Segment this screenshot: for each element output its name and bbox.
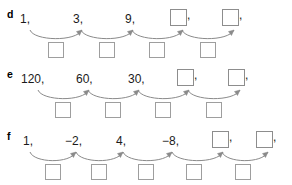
sequence-answer-box[interactable]: , — [256, 129, 276, 146]
rule-answer-box[interactable] — [105, 102, 121, 118]
arrow-head-icon — [118, 152, 124, 158]
arrow-head-icon — [229, 30, 235, 36]
arrow-head-icon — [263, 152, 269, 158]
empty-box-icon[interactable] — [170, 9, 187, 26]
empty-box-icon[interactable] — [228, 69, 245, 86]
sequence-row-e: e120,60,30,,, — [0, 60, 292, 122]
sequence-row-d: d1,3,9,,, — [0, 0, 292, 62]
rule-answer-box[interactable] — [55, 102, 71, 118]
rule-answer-box[interactable] — [155, 102, 171, 118]
sequence-term: 1, — [20, 12, 30, 26]
sequence-answer-box[interactable]: , — [212, 129, 232, 146]
rule-answer-box[interactable] — [45, 164, 61, 180]
sequence-term: −2, — [65, 134, 82, 148]
rule-answer-box[interactable] — [91, 164, 107, 180]
comma: , — [229, 130, 232, 144]
sequence-term: 4, — [116, 134, 126, 148]
empty-box-icon[interactable] — [256, 131, 273, 148]
sequence-row-f: f1,−2,4,−8,,, — [0, 122, 292, 185]
rule-answer-box[interactable] — [206, 102, 222, 118]
sequence-answer-box[interactable]: , — [170, 7, 190, 24]
arrow-head-icon — [77, 30, 83, 36]
comma: , — [245, 68, 248, 82]
rule-answer-box[interactable] — [99, 42, 115, 58]
rule-answer-box[interactable] — [200, 42, 216, 58]
sequence-answer-box[interactable]: , — [228, 67, 248, 84]
curved-arrow-icon — [138, 90, 189, 99]
rule-answer-box[interactable] — [186, 164, 202, 180]
row-label-e: e — [7, 68, 13, 80]
sequence-term: 30, — [128, 72, 145, 86]
curved-arrow-icon — [81, 30, 133, 39]
arrow-head-icon — [235, 90, 241, 96]
comma: , — [273, 130, 276, 144]
sequence-answer-box[interactable]: , — [177, 67, 197, 84]
curved-arrow-icon — [88, 90, 139, 99]
empty-box-icon[interactable] — [212, 131, 229, 148]
curved-arrow-icon — [182, 30, 234, 39]
empty-box-icon[interactable] — [177, 69, 194, 86]
sequence-term: 60, — [76, 72, 93, 86]
curved-arrow-icon — [123, 152, 172, 161]
sequence-term: 1, — [23, 134, 33, 148]
rule-answer-box[interactable] — [48, 42, 64, 58]
arrow-head-icon — [218, 152, 224, 158]
comma: , — [187, 8, 190, 22]
row-label-d: d — [7, 8, 13, 20]
empty-box-icon[interactable] — [222, 9, 239, 26]
rule-answer-box[interactable] — [235, 164, 251, 180]
curved-arrow-icon — [172, 152, 223, 161]
curved-arrow-icon — [30, 30, 82, 39]
rule-answer-box[interactable] — [149, 42, 165, 58]
comma: , — [239, 8, 242, 22]
sequence-term: 3, — [73, 12, 83, 26]
arrow-head-icon — [128, 30, 134, 36]
sequence-term: 120, — [21, 72, 44, 86]
arrow-head-icon — [71, 152, 77, 158]
sequence-answer-box[interactable]: , — [222, 7, 242, 24]
curved-arrow-icon — [38, 90, 89, 99]
arrow-head-icon — [167, 152, 173, 158]
arrow-head-icon — [178, 30, 184, 36]
comma: , — [194, 68, 197, 82]
curved-arrow-icon — [76, 152, 123, 161]
sequence-term: 9, — [125, 12, 135, 26]
curved-arrow-icon — [30, 152, 76, 161]
curved-arrow-icon — [222, 152, 268, 161]
curved-arrow-icon — [188, 90, 240, 99]
rule-answer-box[interactable] — [138, 164, 154, 180]
arrow-head-icon — [84, 90, 90, 96]
row-label-f: f — [7, 130, 11, 142]
arrow-head-icon — [184, 90, 190, 96]
curved-arrow-icon — [132, 30, 183, 39]
arrow-head-icon — [134, 90, 140, 96]
sequence-term: −8, — [162, 134, 179, 148]
